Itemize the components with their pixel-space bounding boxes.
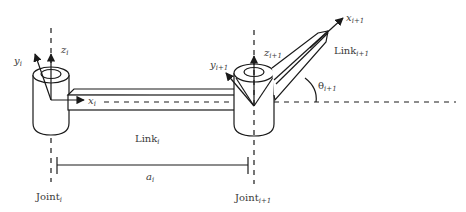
label-a-i: ai: [146, 171, 154, 184]
label-joint-i1: Jointi+1: [234, 192, 271, 205]
label-joint-i: Jointi: [35, 191, 62, 204]
label-link-i1: Linki+1: [334, 45, 369, 58]
label-y-i1: yi+1: [209, 59, 228, 72]
label-x-i1: xi+1: [346, 12, 364, 25]
dh-diagram: yi zi xi yi+1 zi+1 xi+1 Linki+1 θi+1 Lin…: [0, 0, 466, 212]
label-y-i: yi: [13, 55, 22, 68]
label-theta-i1: θi+1: [318, 80, 337, 93]
a-i-dimension: [57, 157, 248, 174]
label-z-i1: zi+1: [263, 47, 282, 60]
x-i1-arrow: [310, 18, 343, 48]
label-z-i: zi: [60, 44, 69, 57]
theta-arc: [305, 78, 316, 102]
label-link-i: Linki: [135, 133, 160, 146]
